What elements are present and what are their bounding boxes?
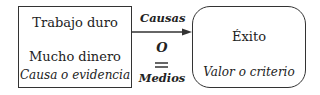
causas-label: Causas bbox=[140, 11, 184, 25]
medios-label: Medios bbox=[138, 71, 186, 85]
o-label: O bbox=[140, 40, 184, 55]
arrowhead-icon bbox=[182, 29, 192, 36]
